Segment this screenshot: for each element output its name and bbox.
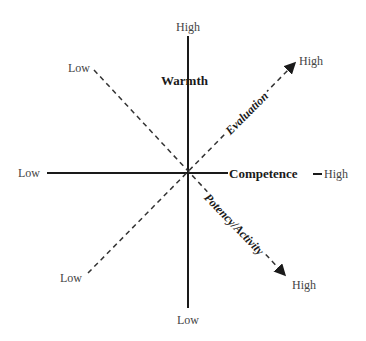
warmth-high-label: High <box>176 21 200 33</box>
warmth-axis-title: Warmth <box>161 74 208 87</box>
competence-axis-title: Competence <box>229 167 298 180</box>
competence-high-label: High <box>324 168 348 180</box>
warmth-low-label: Low <box>177 314 199 326</box>
potency-low-label: Low <box>60 272 82 284</box>
evaluation-low-label: Low <box>68 62 90 74</box>
evaluation-high-label: High <box>299 55 323 67</box>
competence-low-label: Low <box>18 167 40 179</box>
potency-high-label: High <box>292 279 316 291</box>
